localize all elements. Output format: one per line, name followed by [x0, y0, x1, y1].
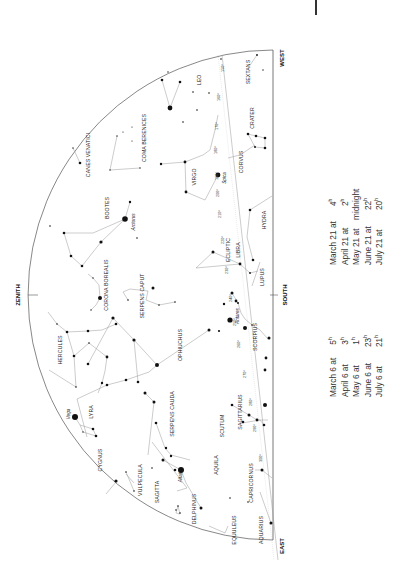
svg-text:280°: 280°: [249, 398, 253, 406]
svg-text:CANES VENATICI: CANES VENATICI: [85, 133, 91, 177]
svg-text:CYGNUS: CYGNUS: [97, 448, 103, 471]
svg-text:VIRGO: VIRGO: [191, 168, 197, 185]
time-row: April 6 at 3h: [340, 335, 352, 397]
time-row: April 21 at2h: [340, 189, 352, 265]
svg-text:AQUARIUS: AQUARIUS: [258, 516, 264, 544]
svg-text:Altair: Altair: [178, 471, 183, 483]
svg-text:230°: 230°: [225, 266, 229, 274]
svg-text:220°: 220°: [221, 236, 225, 244]
svg-text:Arcturus: Arcturus: [131, 213, 136, 232]
svg-text:LYRA: LYRA: [88, 405, 94, 419]
svg-text:VULPECULA: VULPECULA: [137, 464, 143, 496]
svg-text:270°: 270°: [243, 370, 247, 378]
svg-text:CAPRICORNUS: CAPRICORNUS: [248, 463, 254, 503]
svg-text:SCORPIUS: SCORPIUS: [252, 323, 258, 351]
svg-text:HYDRA: HYDRA: [261, 210, 267, 229]
svg-text:SAGITTARIUS: SAGITTARIUS: [237, 394, 243, 430]
svg-text:LUPUS: LUPUS: [259, 268, 265, 286]
ecliptic-label: ECLIPTIC: [225, 238, 231, 262]
svg-text:EQUULEUS: EQUULEUS: [231, 515, 237, 545]
east-label: EAST: [279, 538, 285, 554]
svg-text:COMA BERENICES: COMA BERENICES: [141, 114, 147, 163]
time-row: June 6 at23h: [363, 335, 375, 397]
svg-text:Vega: Vega: [66, 408, 71, 419]
svg-text:SCUTUM: SCUTUM: [219, 415, 225, 438]
svg-text:CRATER: CRATER: [249, 107, 255, 129]
time-row: May 6 at 1h: [351, 335, 363, 397]
svg-text:170°: 170°: [215, 122, 219, 130]
svg-text:150°: 150°: [221, 64, 225, 72]
svg-text:LIBRA: LIBRA: [235, 242, 241, 258]
svg-text:SERPENS CAUDA: SERPENS CAUDA: [169, 391, 175, 437]
svg-text:AQUILA: AQUILA: [213, 455, 219, 475]
svg-text:210°: 210°: [218, 210, 222, 218]
svg-text:260°: 260°: [237, 340, 241, 348]
visibility-times-left: March 6 at 5h April 6 at 3h May 6 at 1h …: [328, 335, 386, 397]
constellation-lines: [48, 55, 272, 533]
svg-text:SEXTANS: SEXTANS: [245, 59, 251, 84]
visibility-times-right: March 21 at4h April 21 at2h May 21 atmid…: [328, 189, 386, 265]
svg-text:300°: 300°: [259, 454, 263, 462]
svg-text:SAGITTA: SAGITTA: [154, 480, 160, 503]
time-row: March 6 at 5h: [328, 335, 340, 397]
svg-text:CORONA BOREALIS: CORONA BOREALIS: [103, 259, 109, 311]
svg-text:HERCULES: HERCULES: [57, 335, 63, 364]
svg-text:180°: 180°: [214, 146, 218, 154]
svg-text:OPHIUCHUS: OPHIUCHUS: [177, 329, 183, 361]
svg-text:LEO: LEO: [196, 75, 202, 86]
time-row: July 21 at20h: [374, 189, 386, 265]
star-names: Arcturus Spica Antares Vega Altair: [66, 172, 240, 483]
svg-text:250°: 250°: [233, 318, 237, 326]
svg-text:190°: 190°: [215, 172, 219, 180]
svg-text:SERPENS CAPUT: SERPENS CAPUT: [139, 273, 145, 319]
time-row: July 6 at21h: [374, 335, 386, 397]
south-label: SOUTH: [282, 285, 288, 306]
star-chart: ZENITH WEST SOUTH EAST: [0, 0, 409, 575]
zenith-label: ZENITH: [15, 284, 21, 306]
svg-text:240°: 240°: [229, 294, 233, 302]
horizon-arc: [28, 50, 273, 540]
svg-text:200°: 200°: [216, 189, 220, 197]
svg-text:BOOTES: BOOTES: [104, 196, 110, 219]
svg-text:160°: 160°: [217, 93, 221, 101]
svg-text:Spica: Spica: [222, 172, 227, 184]
svg-text:DELPHINUS: DELPHINUS: [191, 493, 197, 524]
svg-text:290°: 290°: [253, 424, 257, 432]
svg-text:CORVUS: CORVUS: [238, 150, 244, 173]
west-label: WEST: [279, 49, 285, 67]
